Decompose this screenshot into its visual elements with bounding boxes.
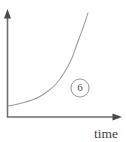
x-axis-label: time: [94, 126, 118, 141]
growth-curve-path: [8, 13, 88, 106]
arrow-right-icon: [113, 114, 123, 121]
callout-number-label: 6: [77, 81, 83, 93]
callout-6: 6: [71, 79, 89, 97]
arrow-up-icon: [4, 9, 11, 19]
exponential-growth-figure: 6 time: [0, 0, 126, 142]
figure-canvas: 6 time: [0, 0, 126, 142]
